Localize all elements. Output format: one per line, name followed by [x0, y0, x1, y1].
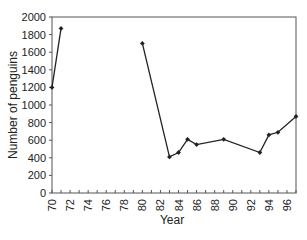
y-tick-label: 400 — [28, 152, 46, 164]
y-axis-title: Number of penguins — [6, 51, 20, 159]
y-tick-label: 1400 — [22, 64, 46, 76]
data-point-marker — [221, 137, 226, 142]
y-tick-label: 1800 — [22, 29, 46, 41]
y-tick-label: 200 — [28, 169, 46, 181]
y-tick-label: 1600 — [22, 46, 46, 58]
x-tick-label: 96 — [281, 199, 293, 211]
x-tick-label: 80 — [136, 199, 148, 211]
y-tick-label: 800 — [28, 117, 46, 129]
y-tick-label: 600 — [28, 134, 46, 146]
data-series — [50, 26, 299, 159]
data-point-marker — [140, 41, 145, 46]
x-tick-label: 74 — [82, 199, 94, 211]
y-tick-label: 1000 — [22, 99, 46, 111]
series-line — [52, 28, 61, 87]
line-chart: 0200400600800100012001400160018002000 70… — [0, 0, 307, 240]
x-tick-label: 78 — [118, 199, 130, 211]
data-point-marker — [266, 133, 271, 138]
x-tick-label: 86 — [191, 199, 203, 211]
x-tick-label: 72 — [64, 199, 76, 211]
x-tick-label: 82 — [154, 199, 166, 211]
y-tick-label: 0 — [40, 187, 46, 199]
data-point-marker — [257, 150, 262, 155]
x-tick-label: 94 — [263, 199, 275, 211]
y-axis: 0200400600800100012001400160018002000 — [22, 11, 52, 199]
series-line — [142, 43, 296, 157]
x-tick-label: 88 — [209, 199, 221, 211]
data-point-marker — [59, 26, 64, 31]
y-tick-label: 2000 — [22, 11, 46, 23]
data-point-marker — [50, 85, 55, 90]
data-point-marker — [167, 155, 172, 160]
plot-frame — [52, 17, 296, 193]
x-tick-label: 90 — [227, 199, 239, 211]
x-tick-label: 70 — [46, 199, 58, 211]
x-tick-label: 76 — [100, 199, 112, 211]
y-tick-label: 1200 — [22, 81, 46, 93]
x-tick-label: 92 — [245, 199, 257, 211]
x-axis-title: Year — [160, 213, 184, 227]
x-tick-label: 84 — [173, 199, 185, 211]
